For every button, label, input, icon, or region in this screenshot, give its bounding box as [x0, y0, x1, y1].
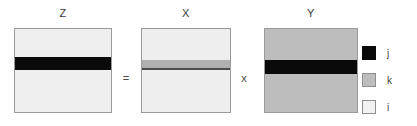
- matrix-label-y: Y: [264, 7, 358, 19]
- legend-label-j: j: [387, 47, 389, 60]
- legend-swatch-icon-i: [362, 100, 376, 114]
- operator-equals: =: [118, 72, 134, 84]
- legend-label-i: i: [387, 101, 389, 114]
- matrix-band-y: [265, 60, 357, 74]
- legend: j k i: [362, 46, 414, 120]
- legend-item-j: j: [362, 46, 414, 62]
- matrix-multiplication-figure: Z = X x Y j k i: [0, 0, 417, 126]
- legend-swatch-icon-k: [362, 73, 376, 87]
- legend-item-i: i: [362, 100, 414, 116]
- legend-swatch-icon-j: [362, 46, 376, 60]
- matrix-band-x: [142, 60, 230, 70]
- legend-label-k: k: [387, 74, 392, 87]
- matrix-box-z: [14, 28, 112, 113]
- matrix-group-y: Y: [264, 7, 358, 119]
- legend-item-k: k: [362, 73, 414, 89]
- matrix-label-z: Z: [14, 7, 112, 19]
- matrix-group-x: X: [141, 7, 231, 119]
- matrix-band-z: [15, 57, 111, 70]
- matrix-box-x: [141, 28, 231, 113]
- matrix-box-y: [264, 28, 358, 113]
- operator-times: x: [236, 72, 252, 84]
- matrix-group-z: Z: [14, 7, 112, 119]
- matrix-label-x: X: [141, 7, 231, 19]
